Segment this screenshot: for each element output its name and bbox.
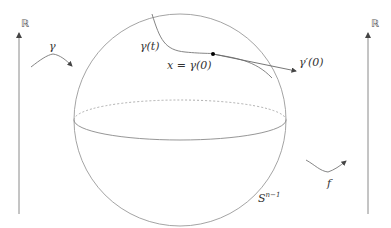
point-x (211, 52, 215, 56)
sphere-exponent: n−1 (266, 191, 281, 199)
right-axis-label: ℝ (371, 19, 379, 29)
gamma-arrow (31, 54, 72, 67)
gamma-prime-label: γ′(0) (299, 57, 324, 68)
gamma-t-label: γ(t) (140, 41, 160, 52)
sphere-base: S (258, 192, 266, 205)
diagram-canvas (0, 0, 391, 228)
equator-front (74, 120, 286, 140)
left-axis-label: ℝ (21, 19, 29, 29)
equator-back (74, 100, 286, 120)
sphere-label: Sn−1 (258, 192, 280, 204)
sphere (74, 14, 286, 226)
gamma-label: γ (49, 41, 56, 52)
tangent-vector (213, 54, 296, 71)
f-label: f (327, 178, 331, 189)
f-arrow (306, 160, 346, 172)
x-equals-gamma0-label: x = γ(0) (167, 60, 212, 71)
